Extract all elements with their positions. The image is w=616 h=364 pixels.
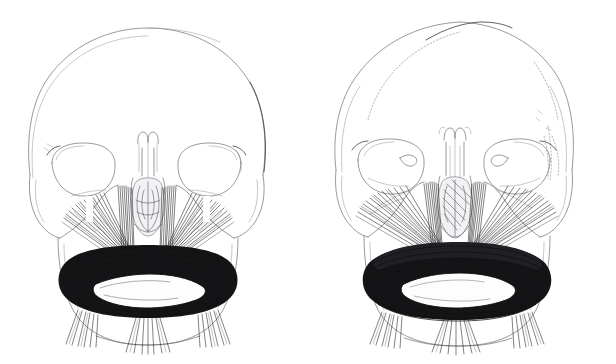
skull-panel-right (308, 0, 616, 364)
orbit-left-side (352, 139, 424, 194)
orbicularis-oris-left (59, 245, 238, 318)
nasal-cartilage-right (438, 177, 473, 238)
anatomy-figure (0, 0, 616, 364)
highlight-patch-left (86, 196, 93, 222)
highlight-patch-right (203, 196, 210, 222)
skull-drawing-left (0, 0, 308, 364)
skull-panel-left (0, 0, 308, 364)
orbit-left-side (47, 143, 115, 196)
skull-drawing-right (308, 0, 616, 364)
nasal-cartilage-left (131, 178, 164, 236)
orbit-right-side (178, 143, 246, 196)
cranium-left (29, 28, 266, 178)
orbit-right-side (484, 139, 556, 194)
cranium-right (335, 22, 574, 180)
orbicularis-oris-right (363, 242, 552, 321)
